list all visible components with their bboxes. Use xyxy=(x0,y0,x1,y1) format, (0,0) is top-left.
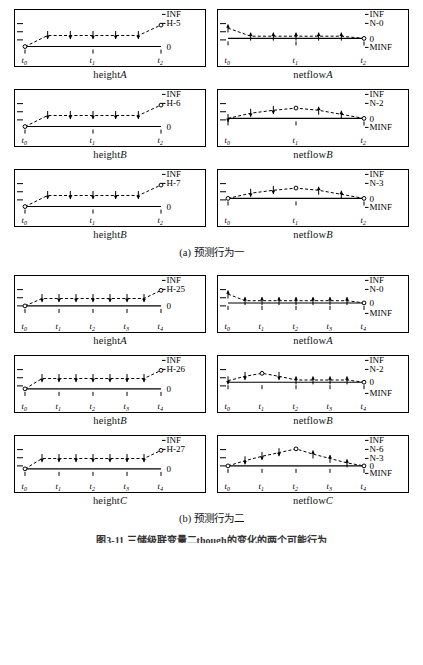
svg-text:t2: t2 xyxy=(158,135,163,146)
panel-cell: t0t1t2INFN-20MINF netflowB xyxy=(217,89,409,160)
svg-text:MINF: MINF xyxy=(370,468,393,478)
panel-cell: t0t1t2t3t4INFH-260 heightB xyxy=(14,355,206,426)
plot-panel: t0t1t2t3t4INFN-00MINF xyxy=(217,275,409,333)
svg-text:t3: t3 xyxy=(124,321,129,332)
svg-text:t1: t1 xyxy=(259,401,264,412)
svg-text:t0: t0 xyxy=(22,321,27,332)
svg-text:t1: t1 xyxy=(293,215,298,226)
group-spacer xyxy=(0,259,423,275)
svg-text:t0: t0 xyxy=(22,481,27,492)
plot-panel: t0t1t2INFN-00MINF xyxy=(217,9,409,67)
svg-text:0: 0 xyxy=(167,122,172,132)
svg-text:t2: t2 xyxy=(90,401,95,412)
svg-text:t1: t1 xyxy=(259,481,264,492)
svg-text:t4: t4 xyxy=(158,321,163,332)
svg-text:t1: t1 xyxy=(90,135,95,146)
svg-text:t0: t0 xyxy=(225,481,230,492)
svg-text:t2: t2 xyxy=(361,135,366,146)
plot-panel: t0t1t2INFN-30MINF xyxy=(217,169,409,227)
row-spacer xyxy=(0,426,423,435)
row-spacer xyxy=(0,160,423,169)
svg-text:t2: t2 xyxy=(293,481,298,492)
svg-text:N-0: N-0 xyxy=(370,284,384,294)
panel-caption: heightB xyxy=(14,415,206,426)
plot-panel: t0t1t2INFH-50 xyxy=(14,9,206,67)
svg-text:t1: t1 xyxy=(259,321,264,332)
svg-text:t2: t2 xyxy=(361,215,366,226)
svg-text:MINF: MINF xyxy=(370,202,393,212)
panel-cell: t0t1t2INFH-50 heightA xyxy=(14,9,206,80)
panel-cell: t0t1t2t3t4INFH-250 heightA xyxy=(14,275,206,346)
panel-caption: heightA xyxy=(14,335,206,346)
panel-caption: netflowB xyxy=(217,415,409,426)
svg-text:t3: t3 xyxy=(327,321,332,332)
svg-text:H-5: H-5 xyxy=(167,18,181,28)
panel-caption: netflowB xyxy=(217,149,409,160)
svg-text:t0: t0 xyxy=(22,55,27,66)
svg-text:t3: t3 xyxy=(124,401,129,412)
svg-text:N-3: N-3 xyxy=(370,178,384,188)
panel-caption: heightB xyxy=(14,149,206,160)
svg-text:0: 0 xyxy=(167,202,172,212)
plot-panel: t0t1t2INFN-20MINF xyxy=(217,89,409,147)
svg-text:t3: t3 xyxy=(124,481,129,492)
svg-text:MINF: MINF xyxy=(370,388,393,398)
panel-cell: t0t1t2t3t4INFN-00MINF netflowA xyxy=(217,275,409,346)
svg-text:N-2: N-2 xyxy=(370,98,384,108)
panel-row: t0t1t2INFH-50 heightA t0t1t2INFN-00MINF … xyxy=(0,9,423,80)
svg-text:0: 0 xyxy=(370,377,375,387)
svg-text:t1: t1 xyxy=(90,215,95,226)
svg-text:t1: t1 xyxy=(56,401,61,412)
panel-cell: t0t1t2t3t4INFN-20MINF netflowB xyxy=(217,355,409,426)
svg-text:t2: t2 xyxy=(90,481,95,492)
panel-row: t0t1t2INFH-70 heightB t0t1t2INFN-30MINF … xyxy=(0,169,423,240)
svg-text:H-26: H-26 xyxy=(167,364,186,374)
plot-panel: t0t1t2t3t4INFH-260 xyxy=(14,355,206,413)
svg-text:t2: t2 xyxy=(293,321,298,332)
svg-text:t2: t2 xyxy=(158,215,163,226)
svg-text:0: 0 xyxy=(167,42,172,52)
panel-caption: netflowA xyxy=(217,69,409,80)
svg-text:t1: t1 xyxy=(293,135,298,146)
svg-text:t2: t2 xyxy=(90,321,95,332)
svg-text:H-27: H-27 xyxy=(167,444,186,454)
svg-text:0: 0 xyxy=(370,298,375,308)
figure-container: t0t1t2INFH-50 heightA t0t1t2INFN-00MINF … xyxy=(0,0,423,665)
svg-text:t4: t4 xyxy=(158,481,163,492)
svg-text:MINF: MINF xyxy=(370,42,393,52)
plot-panel: t0t1t2t3t4INFH-250 xyxy=(14,275,206,333)
svg-text:t4: t4 xyxy=(361,481,366,492)
row-spacer xyxy=(0,346,423,355)
panel-row: t0t1t2t3t4INFH-260 heightB t0t1t2t3t4INF… xyxy=(0,355,423,426)
row-spacer xyxy=(0,80,423,89)
svg-text:t0: t0 xyxy=(225,55,230,66)
svg-text:t3: t3 xyxy=(327,481,332,492)
panel-cell: t0t1t2t3t4INFH-270 heightC xyxy=(14,435,206,506)
svg-text:t3: t3 xyxy=(327,401,332,412)
svg-text:t1: t1 xyxy=(56,321,61,332)
svg-text:H-6: H-6 xyxy=(167,98,181,108)
subfigure-caption-a: (a) 预测行为一 xyxy=(0,244,423,259)
svg-text:0: 0 xyxy=(167,464,172,474)
plot-panel: t0t1t2INFH-70 xyxy=(14,169,206,227)
plot-panel: t0t1t2t3t4INFH-270 xyxy=(14,435,206,493)
panel-caption: heightA xyxy=(14,69,206,80)
svg-text:t1: t1 xyxy=(293,55,298,66)
svg-text:t0: t0 xyxy=(225,321,230,332)
svg-text:N-0: N-0 xyxy=(370,18,384,28)
svg-text:t4: t4 xyxy=(158,401,163,412)
panel-caption: netflowB xyxy=(217,229,409,240)
plot-panel: t0t1t2t3t4INFN-6N-30MINF xyxy=(217,435,409,493)
panel-cell: t0t1t2INFH-70 heightB xyxy=(14,169,206,240)
svg-text:t0: t0 xyxy=(22,401,27,412)
plot-panel: t0t1t2INFH-60 xyxy=(14,89,206,147)
panel-caption: heightB xyxy=(14,229,206,240)
svg-text:MINF: MINF xyxy=(370,308,393,318)
svg-text:H-25: H-25 xyxy=(167,284,186,294)
svg-text:t0: t0 xyxy=(225,215,230,226)
svg-text:t0: t0 xyxy=(22,215,27,226)
plot-panel: t0t1t2t3t4INFN-20MINF xyxy=(217,355,409,413)
panel-caption: netflowA xyxy=(217,335,409,346)
top-spacer xyxy=(0,0,423,9)
svg-text:t0: t0 xyxy=(22,135,27,146)
